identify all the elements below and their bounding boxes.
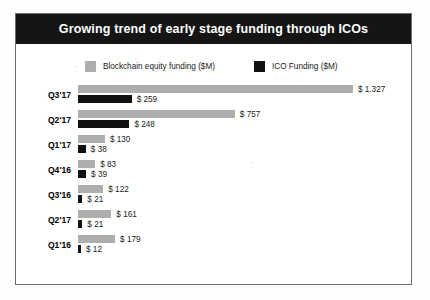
chart-plot-area: Q3'17$ 1.327$ 259Q2'17$ 757$ 248Q1'17$ 1… xyxy=(16,82,411,282)
bar-value-label: $ 161 xyxy=(116,210,137,219)
bar-value-label: $ 757 xyxy=(240,110,261,119)
grey-swatch-icon xyxy=(85,61,96,72)
ico-bar[interactable] xyxy=(78,145,86,153)
equity-bar[interactable] xyxy=(78,110,235,118)
legend-item-ico[interactable]: ICO Funding ($M) xyxy=(254,59,338,73)
bar-line: $ 39 xyxy=(78,170,107,178)
chart-row: Q1'17$ 130$ 38 xyxy=(16,132,411,157)
category-label: Q3'17 xyxy=(16,82,76,107)
chart-card: Growing trend of early stage funding thr… xyxy=(15,13,412,285)
bar-value-label: $ 130 xyxy=(110,135,131,144)
bar-group: $ 161$ 21 xyxy=(78,207,411,232)
ico-bar[interactable] xyxy=(78,195,82,203)
bar-value-label: $ 12 xyxy=(86,245,102,254)
scan-speck xyxy=(76,66,77,67)
equity-bar[interactable] xyxy=(78,235,115,243)
bar-value-label: $ 122 xyxy=(108,185,129,194)
bar-line: $ 1.327 xyxy=(78,85,385,93)
bar-line: $ 38 xyxy=(78,145,107,153)
bar-value-label: $ 21 xyxy=(87,220,103,229)
bar-value-label: $ 83 xyxy=(100,160,116,169)
bar-value-label: $ 259 xyxy=(137,95,158,104)
chart-page: Growing trend of early stage funding thr… xyxy=(0,0,430,300)
ico-bar[interactable] xyxy=(78,120,129,128)
bar-line: $ 83 xyxy=(78,160,116,168)
legend-item-equity[interactable]: Blockchain equity funding ($M) xyxy=(85,59,215,73)
ico-bar[interactable] xyxy=(78,220,82,228)
bar-group: $ 1.327$ 259 xyxy=(78,82,411,107)
chart-row: Q4'16$ 83$ 39 xyxy=(16,157,411,182)
category-label: Q1'16 xyxy=(16,232,76,257)
legend-item-label: Blockchain equity funding ($M) xyxy=(103,62,215,71)
chart-row: Q2'17$ 161$ 21 xyxy=(16,207,411,232)
equity-bar[interactable] xyxy=(78,135,105,143)
bar-group: $ 757$ 248 xyxy=(78,107,411,132)
bar-line: $ 259 xyxy=(78,95,157,103)
equity-bar[interactable] xyxy=(78,160,95,168)
equity-bar[interactable] xyxy=(78,210,111,218)
bar-group: $ 83$ 39 xyxy=(78,157,411,182)
bar-group: $ 122$ 21 xyxy=(78,182,411,207)
bar-line: $ 122 xyxy=(78,185,129,193)
chart-row: Q2'17$ 757$ 248 xyxy=(16,107,411,132)
category-label: Q3'16 xyxy=(16,182,76,207)
ico-bar[interactable] xyxy=(78,245,81,253)
category-label: Q2'17 xyxy=(16,107,76,132)
category-label: Q1'17 xyxy=(16,132,76,157)
scan-speck xyxy=(252,162,253,163)
bar-line: $ 757 xyxy=(78,110,260,118)
bar-value-label: $ 39 xyxy=(91,170,107,179)
bar-line: $ 21 xyxy=(78,195,103,203)
category-label: Q4'16 xyxy=(16,157,76,182)
bar-line: $ 21 xyxy=(78,220,103,228)
bar-value-label: $ 1.327 xyxy=(358,85,385,94)
bar-value-label: $ 21 xyxy=(87,195,103,204)
black-swatch-icon xyxy=(254,61,265,72)
legend-item-label: ICO Funding ($M) xyxy=(272,62,338,71)
bar-line: $ 161 xyxy=(78,210,137,218)
chart-legend: Blockchain equity funding ($M) ICO Fundi… xyxy=(16,57,411,77)
ico-bar[interactable] xyxy=(78,170,86,178)
equity-bar[interactable] xyxy=(78,185,103,193)
bar-line: $ 179 xyxy=(78,235,141,243)
bar-value-label: $ 179 xyxy=(120,235,141,244)
chart-row: Q3'17$ 1.327$ 259 xyxy=(16,82,411,107)
bar-line: $ 248 xyxy=(78,120,155,128)
bar-line: $ 130 xyxy=(78,135,130,143)
equity-bar[interactable] xyxy=(78,85,353,93)
bar-value-label: $ 38 xyxy=(91,145,107,154)
bar-value-label: $ 248 xyxy=(134,120,155,129)
chart-row: Q3'16$ 122$ 21 xyxy=(16,182,411,207)
chart-title-bar: Growing trend of early stage funding thr… xyxy=(16,14,411,44)
bar-line: $ 12 xyxy=(78,245,102,253)
page-title: Growing trend of early stage funding thr… xyxy=(59,22,368,36)
ico-bar[interactable] xyxy=(78,95,132,103)
bar-group: $ 130$ 38 xyxy=(78,132,411,157)
category-label: Q2'17 xyxy=(16,207,76,232)
bar-group: $ 179$ 12 xyxy=(78,232,411,257)
chart-row: Q1'16$ 179$ 12 xyxy=(16,232,411,257)
